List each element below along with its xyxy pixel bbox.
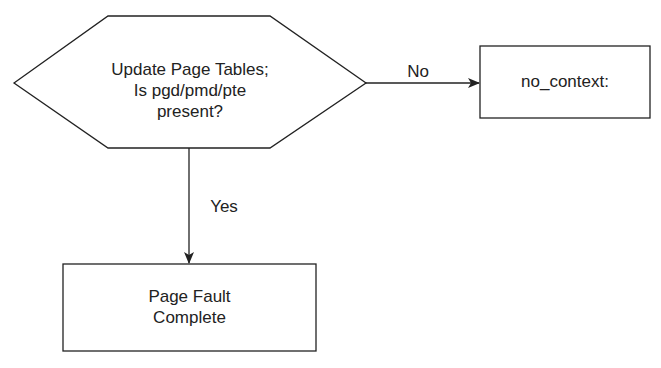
no-context-label: no_context: xyxy=(480,71,650,92)
decision-line-3: present? xyxy=(70,101,310,122)
complete-line-2: Complete xyxy=(63,307,316,328)
no-label: No xyxy=(398,61,438,82)
yes-label: Yes xyxy=(200,196,248,217)
complete-line-1: Page Fault xyxy=(63,286,316,307)
complete-text: Page Fault Complete xyxy=(63,286,316,328)
decision-line-2: Is pgd/pmd/pte xyxy=(70,80,310,101)
decision-line-1: Update Page Tables; xyxy=(70,59,310,80)
decision-text: Update Page Tables; Is pgd/pmd/pte prese… xyxy=(70,59,310,122)
